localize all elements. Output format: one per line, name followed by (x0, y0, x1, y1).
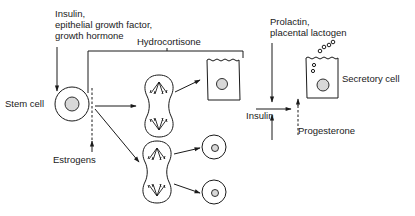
mammary-cell-differentiation-diagram: Insulin, epithelial growth factor, growt… (0, 0, 415, 216)
label-epithelial-growth-factor: epithelial growth factor, (55, 19, 152, 30)
label-placental-lactogen: placental lactogen (270, 27, 347, 38)
label-prolactin: Prolactin, (270, 16, 310, 27)
stem-cell-nucleus (65, 97, 79, 111)
round-cell-a (202, 135, 226, 159)
division-2-to-cell-a-arrow (174, 148, 200, 154)
dividing-cell-1 (145, 75, 173, 137)
secretory-cell (306, 40, 338, 98)
label-insulin-top: Insulin, (55, 8, 85, 19)
label-hydrocortisone: Hydrocortisone (137, 36, 201, 47)
round-cell-b (202, 180, 226, 204)
division-1-to-epithelial-cell-arrow (175, 80, 200, 92)
label-insulin: Insulin (246, 110, 273, 121)
epithelial-cell (207, 59, 240, 100)
stem-to-division-2-arrow (95, 109, 139, 162)
division-2-to-cell-b-arrow (174, 184, 200, 193)
label-secretory-cell: Secretory cell (342, 73, 400, 84)
dividing-cell-2 (143, 141, 171, 203)
label-estrogens: Estrogens (53, 154, 96, 165)
label-growth-hormone: growth hormone (55, 30, 124, 41)
label-stem-cell: Stem cell (5, 98, 44, 109)
label-progesterone: Progesterone (298, 125, 355, 136)
